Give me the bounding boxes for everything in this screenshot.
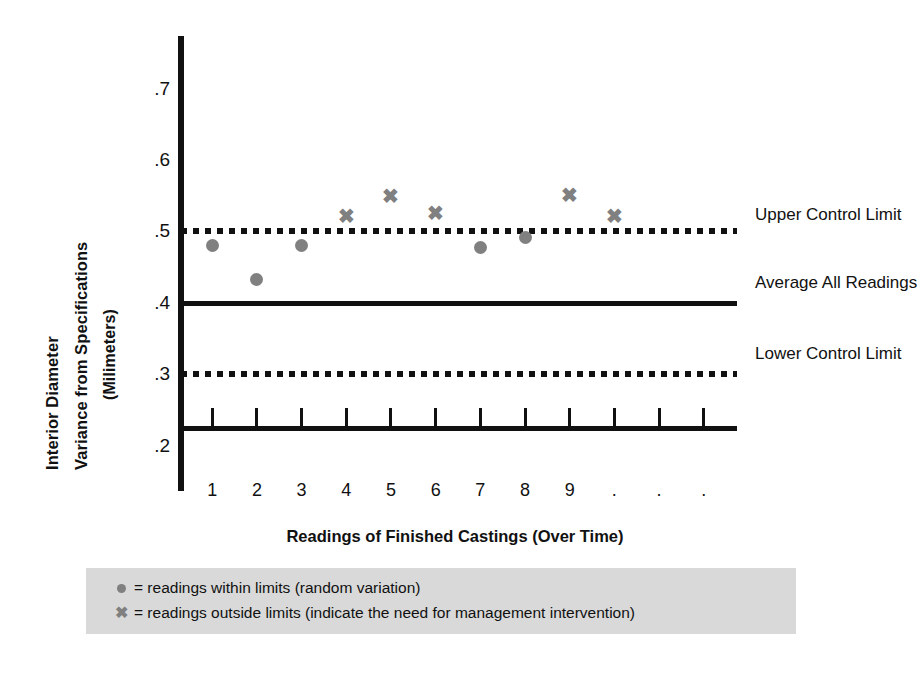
x-tick-label: .: [601, 480, 627, 501]
reference-line-ucl: [181, 228, 737, 234]
legend-label-outside-limits: = readings outside limits (indicate the …: [134, 604, 635, 622]
x-axis-tick: [613, 408, 616, 428]
y-tick-label: .5: [130, 221, 170, 240]
x-tick-label: 4: [333, 480, 359, 501]
data-point-cross: ✖: [561, 186, 579, 204]
chart-legend: = readings within limits (random variati…: [86, 568, 796, 634]
data-point-dot: [250, 273, 263, 286]
x-axis-tick: [255, 408, 258, 428]
legend-item-within-limits: = readings within limits (random variati…: [112, 579, 420, 597]
x-tick-label: 1: [199, 480, 225, 501]
data-point-cross: ✖: [337, 207, 355, 225]
data-point-cross: ✖: [382, 187, 400, 205]
y-axis-tick-labels: .7.6.5.4.3.2: [128, 0, 170, 500]
x-axis-tick: [702, 408, 705, 428]
annotation-average: Average All Readings: [755, 273, 917, 293]
x-axis-tick: [345, 408, 348, 428]
x-axis-tick: [479, 408, 482, 428]
y-tick-label: .2: [130, 436, 170, 455]
legend-cross-icon: ✖: [112, 604, 130, 622]
legend-item-outside-limits: ✖ = readings outside limits (indicate th…: [112, 604, 635, 622]
y-tick-label: .7: [130, 79, 170, 98]
x-axis-tick: [300, 408, 303, 428]
x-tick-label: 8: [512, 480, 538, 501]
data-point-cross: ✖: [427, 204, 445, 222]
x-axis-title: Readings of Finished Castings (Over Time…: [175, 527, 735, 546]
x-tick-label: 5: [378, 480, 404, 501]
reference-line-lcl: [181, 371, 737, 377]
x-tick-label: 6: [423, 480, 449, 501]
x-axis-tick: [524, 408, 527, 428]
x-tick-label: .: [646, 480, 672, 501]
y-tick-label: .4: [130, 293, 170, 312]
x-tick-label: 3: [289, 480, 315, 501]
y-tick-label: .3: [130, 364, 170, 383]
legend-label-within-limits: = readings within limits (random variati…: [134, 579, 420, 597]
annotation-ucl: Upper Control Limit: [755, 205, 901, 225]
x-tick-label: 2: [244, 480, 270, 501]
y-tick-label: .6: [130, 150, 170, 169]
reference-line-average: [181, 301, 737, 306]
annotation-lcl: Lower Control Limit: [755, 344, 901, 364]
plot-area: .7.6.5.4.3.2 123456789... ✖✖✖✖✖ Upper Co…: [0, 0, 884, 520]
x-tick-label: 9: [557, 480, 583, 501]
x-axis-tick: [658, 408, 661, 428]
data-point-cross: ✖: [605, 207, 623, 225]
x-axis-tick: [568, 408, 571, 428]
data-point-dot: [474, 241, 487, 254]
x-tick-label: 7: [467, 480, 493, 501]
data-point-dot: [519, 231, 532, 244]
x-axis-tick: [211, 408, 214, 428]
data-point-dot: [206, 239, 219, 252]
y-axis-line: [178, 36, 184, 491]
x-axis-tick: [434, 408, 437, 428]
x-tick-label: .: [691, 480, 717, 501]
x-axis-line: [181, 426, 737, 431]
x-axis-tick: [389, 408, 392, 428]
legend-dot-icon: [112, 579, 130, 597]
data-point-dot: [295, 239, 308, 252]
